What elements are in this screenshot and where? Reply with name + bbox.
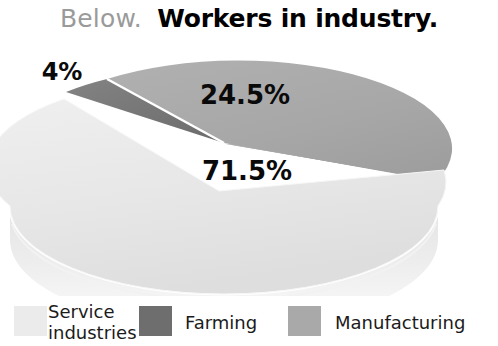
legend-label-service-industries: Service industries (48, 301, 144, 343)
legend-swatch-service-industries (14, 306, 47, 336)
pie-chart-area: 24.5% 71.5% 4% (0, 48, 498, 296)
legend-label-manufacturing: Manufacturing (335, 312, 465, 333)
pie-svg: 24.5% 71.5% 4% (0, 48, 498, 296)
title-main: Workers in industry. (157, 4, 438, 33)
legend-label-farming: Farming (185, 312, 257, 333)
slice-label-farming: 4% (42, 58, 83, 86)
legend-item-manufacturing[interactable]: Manufacturing (288, 300, 493, 346)
legend-item-service-industries[interactable]: Service industries (14, 300, 134, 346)
slice-label-manufacturing: 24.5% (200, 80, 290, 110)
legend-swatch-manufacturing (288, 306, 321, 336)
chart-legend: Service industries Farming Manufacturing (0, 300, 498, 346)
pie-chart-figure: Below. Workers in industry. (0, 0, 498, 346)
legend-item-farming[interactable]: Farming (139, 300, 279, 346)
chart-title: Below. Workers in industry. (0, 4, 498, 33)
title-prefix: Below. (60, 4, 142, 33)
legend-swatch-farming (139, 306, 172, 336)
slice-label-service: 71.5% (202, 156, 292, 186)
